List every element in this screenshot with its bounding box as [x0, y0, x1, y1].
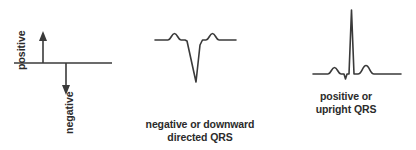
positive-qrs-waveform	[276, 0, 416, 90]
negative-qrs-caption-line2: directed QRS	[130, 131, 270, 144]
positive-axis-label: positive	[15, 30, 27, 70]
negative-qrs-panel: negative or downward directed QRS	[130, 0, 270, 150]
negative-qrs-caption: negative or downward directed QRS	[130, 118, 270, 143]
positive-qrs-caption-line2: upright QRS	[276, 103, 416, 116]
positive-qrs-panel: positive or upright QRS	[276, 0, 416, 150]
ecg-qrs-polarity-figure: positive negative negative or downward d…	[0, 0, 416, 150]
positive-deflection-arrow	[39, 31, 47, 63]
positive-qrs-caption-line1: positive or	[276, 90, 416, 103]
positive-qrs-trace	[313, 10, 401, 79]
negative-axis-label: negative	[63, 91, 75, 134]
negative-qrs-caption-line1: negative or downward	[130, 118, 270, 131]
positive-qrs-caption: positive or upright QRS	[276, 90, 416, 115]
negative-qrs-trace	[155, 34, 236, 83]
deflection-reference-panel: positive negative	[0, 0, 130, 150]
negative-qrs-waveform	[130, 0, 270, 120]
